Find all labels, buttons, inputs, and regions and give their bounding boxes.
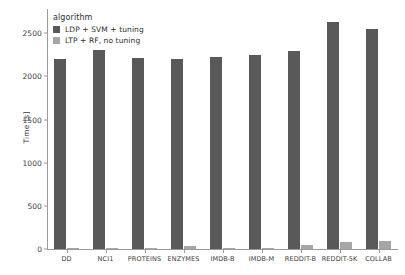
x-axis-tick: REDDIT-5K <box>320 250 359 272</box>
y-axis-tick-label: 0 <box>37 245 42 254</box>
bar <box>262 248 274 249</box>
bar <box>106 248 118 249</box>
bar <box>249 55 261 249</box>
x-axis-tick-label: ENZYMES <box>168 255 200 263</box>
bar <box>171 59 183 249</box>
x-axis-tick: IMDB-M <box>242 250 281 272</box>
bar <box>93 50 105 249</box>
bar-group <box>359 9 398 249</box>
x-axis-tick-label: REDDIT-B <box>285 255 316 263</box>
x-axis-tick: PROTEINS <box>125 250 164 272</box>
legend-entry: LDP + SVM + tuning <box>53 25 144 34</box>
legend-entry-label: LDP + SVM + tuning <box>65 25 144 34</box>
bar-group <box>242 9 281 249</box>
bar-chart-figure: Time [s] 05001000150020002500 DDNCI1PROT… <box>0 0 405 275</box>
x-axis-tick: ENZYMES <box>164 250 203 272</box>
x-axis-tick-label: NCI1 <box>98 255 114 263</box>
x-axis: DDNCI1PROTEINSENZYMESIMDB-BIMDB-MREDDIT-… <box>47 250 398 272</box>
bar <box>340 242 352 249</box>
legend-entry: LTP + RF, no tuning <box>53 36 144 45</box>
bar <box>145 248 157 249</box>
y-axis-tick-label: 1000 <box>23 158 43 167</box>
y-axis-tick: 2500 <box>23 29 48 38</box>
legend: algorithm LDP + SVM + tuningLTP + RF, no… <box>53 13 144 47</box>
bar-group <box>320 9 359 249</box>
legend-swatch-icon <box>53 37 60 44</box>
bar <box>301 245 313 249</box>
y-axis-tick-label: 2000 <box>23 72 43 81</box>
bar <box>379 241 391 249</box>
x-axis-tick-mark <box>379 250 380 253</box>
y-axis-tick: 2000 <box>23 72 48 81</box>
x-axis-tick: DD <box>47 250 86 272</box>
x-axis-tick: IMDB-B <box>203 250 242 272</box>
y-axis-tick: 1500 <box>23 115 48 124</box>
x-axis-tick-mark <box>223 250 224 253</box>
y-axis-tick: 0 <box>37 245 47 254</box>
legend-title: algorithm <box>53 13 144 22</box>
bar <box>132 58 144 249</box>
bar <box>67 248 79 249</box>
bar <box>184 246 196 249</box>
legend-entry-label: LTP + RF, no tuning <box>65 36 140 45</box>
y-axis-label: Time [s] <box>22 98 31 158</box>
x-axis-tick: REDDIT-B <box>281 250 320 272</box>
x-axis-tick-label: IMDB-B <box>210 255 234 263</box>
x-axis-tick-label: REDDIT-5K <box>322 255 358 263</box>
bar-group <box>203 9 242 249</box>
x-axis-tick-label: IMDB-M <box>249 255 275 263</box>
x-axis-tick-label: DD <box>61 255 71 263</box>
y-axis-tick-label: 2500 <box>23 29 43 38</box>
y-axis-tick: 1000 <box>23 158 48 167</box>
y-axis: Time [s] 05001000150020002500 <box>0 0 47 275</box>
x-axis-tick-mark <box>145 250 146 253</box>
x-axis-tick-mark <box>301 250 302 253</box>
legend-entries: LDP + SVM + tuningLTP + RF, no tuning <box>53 25 144 45</box>
bar <box>223 248 235 249</box>
bar <box>366 29 378 249</box>
bar <box>54 59 66 249</box>
x-axis-tick-label: COLLAB <box>365 255 392 263</box>
x-axis-tick: COLLAB <box>359 250 398 272</box>
x-axis-tick-mark <box>262 250 263 253</box>
y-axis-tick-label: 1500 <box>23 115 43 124</box>
bar-group <box>164 9 203 249</box>
x-axis-tick-mark <box>67 250 68 253</box>
bar <box>327 22 339 249</box>
legend-swatch-icon <box>53 26 60 33</box>
x-axis-tick-mark <box>106 250 107 253</box>
y-axis-tick: 500 <box>27 201 47 210</box>
x-axis-tick-mark <box>184 250 185 253</box>
x-axis-tick: NCI1 <box>86 250 125 272</box>
y-axis-tick-label: 500 <box>27 201 42 210</box>
x-axis-tick-mark <box>340 250 341 253</box>
x-axis-tick-label: PROTEINS <box>128 255 161 263</box>
bar-group <box>281 9 320 249</box>
bar <box>210 57 222 249</box>
bar <box>288 51 300 249</box>
